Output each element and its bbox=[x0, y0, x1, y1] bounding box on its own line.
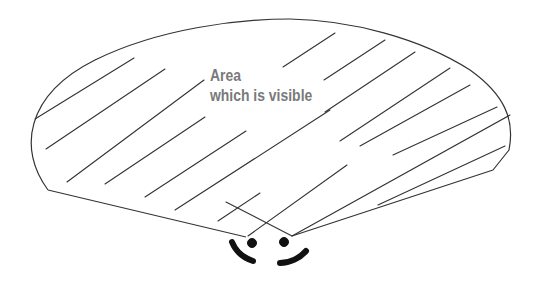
right-eye-icon bbox=[280, 238, 289, 247]
left-eye-icon bbox=[248, 239, 257, 248]
field-of-view-diagram bbox=[0, 0, 534, 282]
visible-area-label: Area which is visible bbox=[210, 66, 312, 106]
visible-area-outline bbox=[31, 19, 510, 237]
viewer-face bbox=[232, 238, 306, 264]
label-line-1: Area bbox=[210, 66, 312, 86]
mouth-mark bbox=[280, 251, 306, 263]
label-line-2: which is visible bbox=[210, 86, 312, 106]
hatch-lines bbox=[35, 33, 510, 236]
